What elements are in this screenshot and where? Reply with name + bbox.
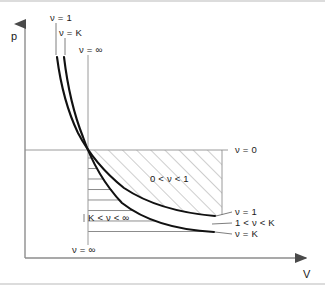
region-fills xyxy=(80,144,230,244)
label-curve-nu-equals-K-right: ν = K xyxy=(235,228,258,239)
label-region-0-lt-nu-lt-1: 0 < ν < 1 xyxy=(150,173,189,184)
label-bottom-nu-equals-infinity: ν = ∞ xyxy=(72,244,95,255)
label-top-nu-equals-1: ν = 1 xyxy=(50,12,72,23)
x-axis-label: V xyxy=(303,268,311,280)
y-axis-label: p xyxy=(11,30,17,42)
label-top-nu-equals-infinity: ν = ∞ xyxy=(79,44,102,55)
pv-diagram-figure: p V ν = 1 ν = K ν = ∞ ν = 0 0 < ν < 1 K … xyxy=(0,0,325,286)
label-nu-equals-0: ν = 0 xyxy=(235,144,257,155)
label-region-1-lt-nu-lt-K: 1 < ν < K xyxy=(235,217,275,228)
label-curve-nu-equals-1-right: ν = 1 xyxy=(235,206,257,217)
pv-diagram-canvas: p V ν = 1 ν = K ν = ∞ ν = 0 0 < ν < 1 K … xyxy=(0,0,325,286)
plate-frame xyxy=(0,1,325,284)
label-top-nu-equals-K: ν = K xyxy=(59,27,82,38)
label-region-K-lt-nu-lt-infinity: K < ν < ∞ xyxy=(88,212,129,223)
